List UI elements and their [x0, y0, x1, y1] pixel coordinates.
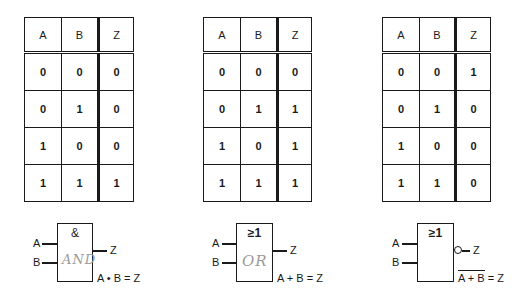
- input-b-label: B: [392, 256, 399, 268]
- input-a-wire: [42, 243, 57, 245]
- cell-z: 1: [99, 165, 134, 202]
- cell-a: 0: [25, 53, 62, 91]
- header-a: A: [25, 18, 62, 53]
- cell-z: 0: [99, 128, 134, 165]
- or-equation: A + B = Z: [277, 272, 323, 284]
- cell-a: 0: [204, 91, 241, 128]
- table-header-row: A B Z: [25, 18, 134, 53]
- table-row: 0 0 0: [204, 53, 312, 91]
- header-z: Z: [456, 18, 491, 53]
- cell-a: 1: [204, 165, 241, 202]
- output-wire: [93, 250, 107, 252]
- truth-table-or: A B Z 0 0 0 0 1 1 1 0 1 1 1 1: [203, 17, 312, 202]
- table-row: 1 0 0: [383, 128, 491, 165]
- table-row: 0 1 0: [25, 91, 134, 128]
- cell-a: 1: [204, 128, 241, 165]
- input-b-wire: [402, 262, 417, 264]
- header-b: B: [241, 18, 278, 53]
- cell-b: 1: [62, 91, 99, 128]
- equation-rhs: = Z: [485, 272, 504, 284]
- cell-a: 0: [204, 53, 241, 91]
- or-gate-box: ≥1 OR: [236, 223, 273, 282]
- table-row: 0 1 1: [204, 91, 312, 128]
- table-row: 1 0 0: [25, 128, 134, 165]
- truth-table-and: A B Z 0 0 0 0 1 0 1 0 0 1 1 1: [24, 17, 134, 202]
- input-a-label: A: [392, 237, 399, 249]
- cell-b: 0: [241, 128, 278, 165]
- cell-z: 1: [456, 53, 491, 91]
- input-b-wire: [222, 262, 236, 264]
- truth-table-nor: A B Z 0 0 1 0 1 0 1 0 0 1 1 0: [382, 17, 491, 202]
- input-b-wire: [42, 262, 57, 264]
- cell-b: 1: [62, 165, 99, 202]
- cell-z: 0: [456, 91, 491, 128]
- output-wire: [273, 250, 287, 252]
- cell-z: 0: [456, 128, 491, 165]
- cell-a: 1: [25, 128, 62, 165]
- or-symbol: ≥1: [418, 226, 453, 240]
- cell-a: 0: [383, 53, 420, 91]
- cell-a: 1: [25, 165, 62, 202]
- input-a-wire: [222, 243, 236, 245]
- table-header-row: A B Z: [204, 18, 312, 53]
- cell-z: 1: [278, 128, 312, 165]
- or-symbol: ≥1: [237, 226, 272, 240]
- cell-a: 1: [383, 165, 420, 202]
- cell-a: 0: [383, 91, 420, 128]
- header-b: B: [420, 18, 456, 53]
- and-gate-box: & AND: [57, 223, 93, 282]
- cell-z: 1: [278, 165, 312, 202]
- table-row: 0 0 1: [383, 53, 491, 91]
- cell-z: 1: [278, 91, 312, 128]
- table-row: 1 1 0: [383, 165, 491, 202]
- table-row: 1 1 1: [204, 165, 312, 202]
- cell-b: 1: [420, 165, 456, 202]
- cell-z: 0: [99, 91, 134, 128]
- header-z: Z: [99, 18, 134, 53]
- inversion-bubble-icon: [454, 246, 462, 254]
- input-a-label: A: [212, 237, 219, 249]
- output-wire: [462, 250, 470, 252]
- output-z-label: Z: [473, 244, 480, 256]
- cell-b: 1: [420, 91, 456, 128]
- cell-b: 0: [62, 53, 99, 91]
- cell-b: 1: [241, 91, 278, 128]
- and-symbol: &: [58, 226, 92, 240]
- overbar-expression: A + B: [458, 270, 485, 284]
- table-row: 0 0 0: [25, 53, 134, 91]
- cell-a: 1: [383, 128, 420, 165]
- cell-z: 0: [99, 53, 134, 91]
- header-a: A: [204, 18, 241, 53]
- cell-b: 0: [420, 128, 456, 165]
- header-a: A: [383, 18, 420, 53]
- cell-z: 0: [278, 53, 312, 91]
- table-header-row: A B Z: [383, 18, 491, 53]
- cell-b: 0: [62, 128, 99, 165]
- cell-a: 0: [25, 91, 62, 128]
- output-z-label: Z: [290, 244, 297, 256]
- input-b-label: B: [212, 256, 219, 268]
- input-b-label: B: [33, 256, 40, 268]
- header-b: B: [62, 18, 99, 53]
- header-z: Z: [278, 18, 312, 53]
- output-z-label: Z: [110, 244, 117, 256]
- cell-b: 0: [420, 53, 456, 91]
- input-a-label: A: [33, 237, 40, 249]
- and-equation: A • B = Z: [97, 272, 140, 284]
- cell-z: 0: [456, 165, 491, 202]
- cell-b: 0: [241, 53, 278, 91]
- handwritten-or-note: OR: [242, 252, 268, 270]
- table-row: 1 0 1: [204, 128, 312, 165]
- table-row: 1 1 1: [25, 165, 134, 202]
- input-a-wire: [402, 243, 417, 245]
- nor-equation: A + B = Z: [458, 272, 504, 284]
- table-row: 0 1 0: [383, 91, 491, 128]
- cell-b: 1: [241, 165, 278, 202]
- handwritten-and-note: AND: [62, 252, 96, 267]
- nor-gate-box: ≥1: [417, 223, 454, 282]
